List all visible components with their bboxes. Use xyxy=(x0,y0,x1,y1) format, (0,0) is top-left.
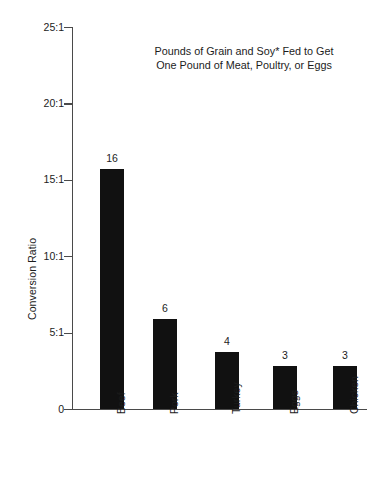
y-axis-tick-label: 20:1 xyxy=(28,98,64,108)
x-axis-category-label: Chicken xyxy=(349,376,360,414)
x-axis-category-label: Turkey xyxy=(231,382,242,414)
y-axis-tick-label: 25:1 xyxy=(28,22,64,32)
y-axis-tick-mark xyxy=(64,409,73,410)
x-axis-category-label: Pork xyxy=(169,392,180,414)
bar-value-label: 4 xyxy=(205,336,249,347)
bar-group: 3 xyxy=(273,27,297,409)
bar-value-label: 3 xyxy=(263,350,307,361)
x-axis-category-label: Beef xyxy=(116,392,127,414)
y-axis-tick-mark xyxy=(64,27,73,28)
y-axis-tick-label: 10:1 xyxy=(28,251,64,261)
bar-group: 4 xyxy=(215,27,239,409)
chart-title-line-2: One Pound of Meat, Poultry, or Eggs xyxy=(120,58,368,72)
y-axis-tick-label: 5:1 xyxy=(28,327,64,337)
y-axis-tick-mark xyxy=(64,256,73,257)
chart-title-line-1: Pounds of Grain and Soy* Fed to Get xyxy=(120,44,368,58)
chart-title: Pounds of Grain and Soy* Fed to Get One … xyxy=(120,44,368,72)
bar-beef[interactable] xyxy=(100,169,124,409)
y-axis-tick-label: 15:1 xyxy=(28,174,64,184)
bar-group: 3 xyxy=(333,27,357,409)
bar-group: 6 xyxy=(153,27,177,409)
y-axis-tick-label: 0 xyxy=(28,404,64,414)
bar-value-label: 16 xyxy=(90,153,134,164)
y-axis-tick-mark xyxy=(64,103,73,104)
y-axis-tick-mark xyxy=(64,333,73,334)
y-axis-tick-mark xyxy=(64,180,73,181)
bar-value-label: 3 xyxy=(323,350,367,361)
x-axis-line xyxy=(64,409,367,410)
bar-group: 16 xyxy=(100,27,124,409)
plot-area: 166433 xyxy=(72,27,367,409)
bar-value-label: 6 xyxy=(143,303,187,314)
y-axis-tick-labels: 05:110:115:120:125:1 xyxy=(28,0,64,477)
bar-chart-figure: Conversion Ratio 05:110:115:120:125:1 16… xyxy=(0,0,379,477)
x-axis-category-label: Eggs xyxy=(289,390,300,414)
